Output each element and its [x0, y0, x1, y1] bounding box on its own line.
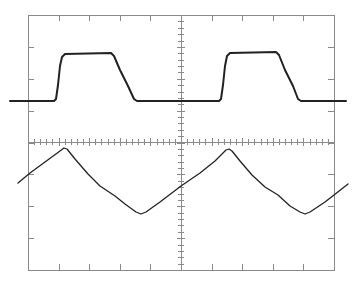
- traces: [10, 52, 348, 214]
- oscilloscope-display: [0, 0, 364, 283]
- square-pulse-trace: [10, 52, 346, 101]
